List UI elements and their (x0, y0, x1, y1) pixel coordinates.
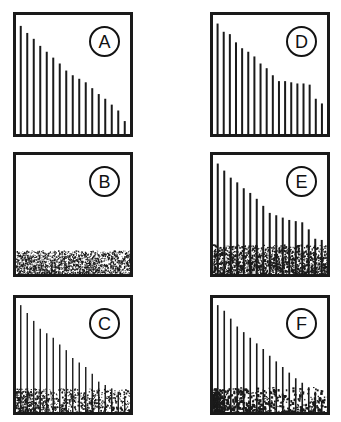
spike (247, 52, 249, 134)
spike (308, 229, 310, 274)
spike (65, 71, 67, 134)
spike (124, 121, 126, 134)
spike (104, 99, 106, 134)
spike (217, 24, 219, 134)
spike (266, 68, 268, 134)
spike (243, 332, 245, 412)
spike (98, 94, 100, 134)
spike (85, 82, 87, 134)
spike (256, 343, 258, 412)
spike (26, 33, 28, 134)
spike (282, 367, 284, 412)
spike (117, 111, 119, 135)
spike (59, 345, 60, 413)
spike (290, 82, 292, 134)
spike (284, 81, 286, 134)
spike (275, 361, 277, 412)
spike (78, 79, 80, 134)
spike (72, 358, 73, 412)
spike (229, 34, 231, 134)
spike (46, 52, 48, 134)
spike (278, 81, 280, 134)
spike (72, 75, 74, 134)
spike (59, 64, 61, 135)
spike (33, 321, 34, 412)
panel-label-a: A (89, 26, 120, 57)
spike (253, 56, 255, 134)
spike (241, 48, 243, 134)
spike (235, 42, 237, 134)
spike (260, 64, 262, 135)
spike (249, 338, 251, 412)
panel-label-e: E (286, 166, 317, 197)
panel-label-b: B (89, 166, 120, 197)
figure-panel-grid: ABCDEF (0, 0, 341, 422)
spike (91, 88, 93, 134)
spike (223, 32, 225, 134)
panel-label-d: D (286, 26, 317, 57)
spike (321, 103, 323, 134)
spike (217, 164, 219, 274)
panel-label-c: C (89, 308, 120, 339)
spike (20, 26, 22, 134)
spike (315, 99, 317, 134)
spike (303, 83, 305, 134)
spike (33, 39, 35, 134)
spike (79, 363, 80, 413)
spike (296, 83, 298, 134)
spike (39, 46, 41, 134)
spike (52, 58, 54, 134)
panel-label-f: F (286, 308, 317, 339)
noise-band (16, 250, 130, 274)
spike (243, 188, 245, 274)
spike (111, 105, 113, 134)
spike (272, 75, 274, 134)
spike (309, 85, 311, 134)
